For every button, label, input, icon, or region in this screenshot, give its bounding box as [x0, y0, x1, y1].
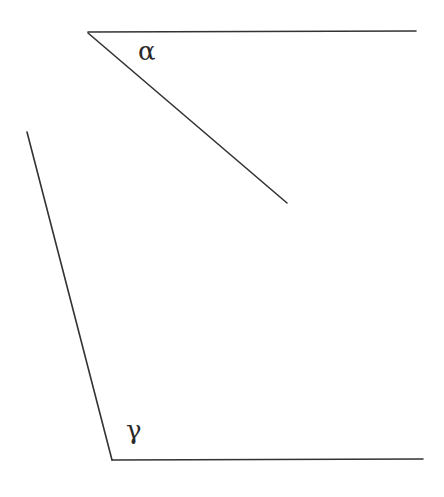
alpha-diagonal-ray [88, 33, 287, 203]
angle-label-alpha: α [138, 38, 156, 64]
gamma-left-ray [27, 132, 112, 460]
gamma-bottom-ray [112, 459, 423, 460]
alpha-top-ray [88, 31, 416, 32]
angle-diagram [0, 0, 444, 497]
angle-label-gamma: γ [126, 417, 142, 443]
